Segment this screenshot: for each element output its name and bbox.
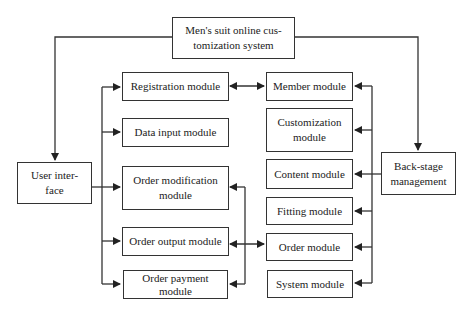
data-input-module-box: Data input module	[122, 118, 229, 147]
root-system-box: Men's suit online cus- tomization system	[172, 17, 295, 59]
order-payment-line1: Order payment	[142, 272, 208, 285]
order-modification-module-box: Order modification module	[122, 166, 229, 210]
system-module-label: System module	[276, 277, 344, 292]
back-stage-line1: Back-stage	[390, 159, 446, 174]
content-module-label: Content module	[274, 167, 345, 182]
fitting-module-label: Fitting module	[277, 204, 342, 219]
user-interface-line1: User inter-	[31, 168, 78, 183]
user-interface-box: User inter- face	[17, 162, 92, 204]
customization-line1: Customization	[277, 115, 341, 130]
order-payment-line2: module	[142, 285, 208, 298]
system-module-box: System module	[267, 270, 353, 298]
order-output-module-box: Order output module	[122, 227, 229, 256]
back-stage-line2: management	[390, 174, 446, 189]
order-modification-line2: module	[133, 188, 218, 203]
order-output-module-label: Order output module	[129, 234, 221, 249]
customization-module-box: Customization module	[266, 108, 353, 152]
root-label-line2: tomization system	[185, 38, 281, 53]
fitting-module-box: Fitting module	[266, 197, 353, 225]
data-input-module-label: Data input module	[135, 125, 217, 140]
order-module-label: Order module	[279, 240, 340, 255]
order-payment-module-box: Order payment module	[123, 270, 228, 299]
member-module-box: Member module	[266, 72, 353, 101]
content-module-box: Content module	[266, 159, 353, 189]
member-module-label: Member module	[273, 79, 346, 94]
user-interface-line2: face	[31, 183, 78, 198]
back-stage-box: Back-stage management	[381, 152, 456, 195]
order-modification-line1: Order modification	[133, 173, 218, 188]
customization-line2: module	[277, 130, 341, 145]
root-label-line1: Men's suit online cus-	[185, 23, 281, 38]
registration-module-box: Registration module	[122, 72, 229, 101]
order-module-box: Order module	[266, 233, 353, 261]
registration-module-label: Registration module	[131, 79, 221, 94]
